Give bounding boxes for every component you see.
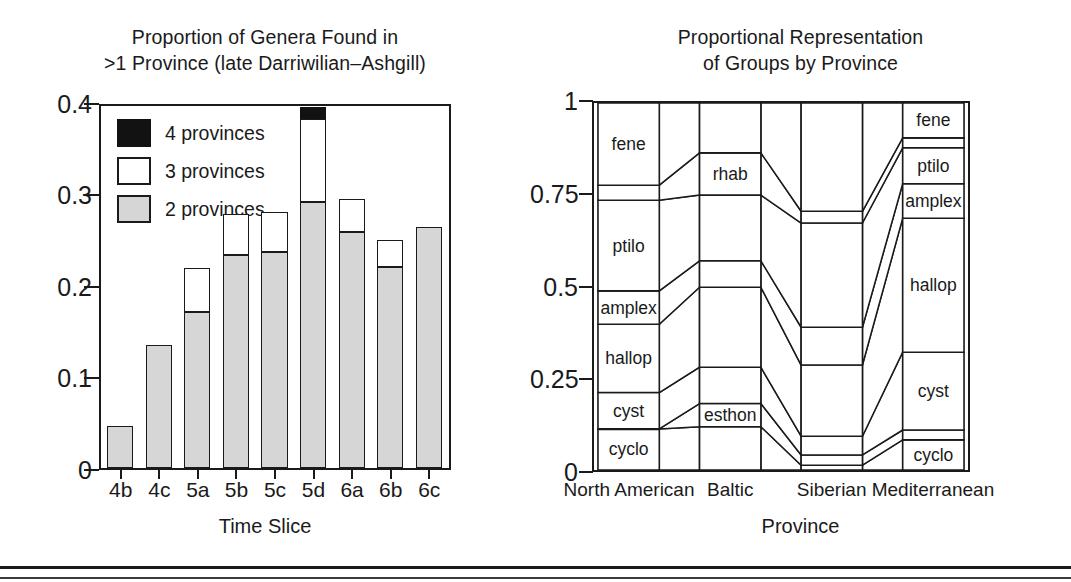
cell-north-american-fene[interactable] <box>598 103 659 185</box>
left-xtickmark-6a <box>351 470 353 479</box>
cell-baltic-rhab[interactable] <box>700 153 761 195</box>
cell-north-american-ptilo[interactable] <box>598 200 659 291</box>
left-xtickmark-5d <box>313 470 315 479</box>
cell-baltic-esthon[interactable] <box>700 404 761 427</box>
left-xtickmark-5c <box>274 470 276 479</box>
cell-mediterranean-amplex[interactable] <box>903 184 964 218</box>
legend-swatch-4-provinces-icon <box>117 119 151 147</box>
left-tickmark-0.1 <box>84 377 99 379</box>
bar-segment-6c-2-provinces <box>416 227 442 468</box>
bar-segment-5c-3-provinces <box>261 212 287 253</box>
right-chart-title: Proportional Representation of Groups by… <box>530 24 1071 76</box>
right-tickmark-0.5 <box>579 286 593 288</box>
left-xtick-5c: 5c <box>264 479 286 501</box>
right-tickmark-0.25 <box>579 378 593 380</box>
left-axis-label: Time Slice <box>0 515 530 538</box>
left-xtick-5d: 5d <box>302 479 325 501</box>
cell-siberian-hallop[interactable] <box>801 365 862 436</box>
legend-label-4-provinces: 4 provinces <box>165 122 265 145</box>
right-xtick-mediterranean: Mediterranean <box>872 479 995 501</box>
cell-mediterranean-ptilo[interactable] <box>903 148 964 184</box>
right-xtick-siberian: Siberian <box>797 479 867 501</box>
cell-baltic-ptilo[interactable] <box>700 195 761 261</box>
left-tickmark-0.4 <box>84 103 99 105</box>
cell-mediterranean-rhab[interactable] <box>903 138 964 148</box>
cell-siberian-cyst[interactable] <box>801 436 862 455</box>
cell-baltic-hallop[interactable] <box>700 287 761 367</box>
bar-segment-4c-2-provinces <box>146 345 172 468</box>
cell-baltic-fene[interactable] <box>700 103 761 153</box>
cell-baltic-cyst[interactable] <box>700 367 761 403</box>
cell-north-american-cyclo[interactable] <box>598 429 659 470</box>
left-tickmark-0.3 <box>84 194 99 196</box>
legend-swatch-3-provinces-icon <box>117 157 151 185</box>
cell-north-american-hallop[interactable] <box>598 324 659 392</box>
cell-mediterranean-cyclo[interactable] <box>903 440 964 470</box>
cell-baltic-amplex[interactable] <box>700 261 761 287</box>
bar-5b[interactable] <box>223 214 249 468</box>
bar-segment-4b-2-provinces <box>107 426 133 468</box>
province-ribbon-diagram <box>594 103 968 470</box>
cell-mediterranean-cyst[interactable] <box>903 352 964 430</box>
ribbon-cyclo-north-american-to-baltic <box>659 427 699 470</box>
left-xtickmark-5b <box>235 470 237 479</box>
bar-5c[interactable] <box>261 212 287 468</box>
bar-6a[interactable] <box>339 199 365 468</box>
left-title-line-1: Proportion of Genera Found in <box>0 24 530 50</box>
bar-6b[interactable] <box>377 240 403 468</box>
left-xtick-6b: 6b <box>379 479 402 501</box>
cell-siberian-esthon[interactable] <box>801 455 862 465</box>
bar-6c[interactable] <box>416 227 442 468</box>
left-tickmark-0.2 <box>84 286 99 288</box>
bar-segment-5b-3-provinces <box>223 214 249 255</box>
cell-siberian-fene[interactable] <box>801 103 862 211</box>
bar-segment-5a-3-provinces <box>184 268 210 312</box>
cell-siberian-ptilo[interactable] <box>801 223 862 327</box>
left-xtick-6a: 6a <box>340 479 363 501</box>
cell-north-american-rhab[interactable] <box>598 185 659 200</box>
right-ytick-0.25: 0.25 <box>530 367 578 392</box>
left-plot-area: 4 provinces 3 provinces 2 provinces <box>99 104 451 470</box>
cell-siberian-rhab[interactable] <box>801 211 862 223</box>
right-xtick-north-american: North American <box>564 479 695 501</box>
cell-baltic-cyclo[interactable] <box>700 427 761 470</box>
legend-item-3-provinces: 3 provinces <box>117 152 265 190</box>
right-ytick-0.5: 0.5 <box>530 275 578 300</box>
left-xtickmark-4c <box>158 470 160 479</box>
left-chart-title: Proportion of Genera Found in >1 Provinc… <box>0 24 530 76</box>
bar-segment-6b-2-provinces <box>377 267 403 468</box>
left-title-line-2: >1 Province (late Darriwilian–Ashgill) <box>0 50 530 76</box>
left-xtickmark-4b <box>120 470 122 479</box>
right-xtick-baltic: Baltic <box>707 479 753 501</box>
legend-swatch-2-provinces-icon <box>117 195 151 223</box>
cell-mediterranean-hallop[interactable] <box>903 218 964 352</box>
bar-5d[interactable] <box>300 107 326 468</box>
bar-segment-5d-4-provinces <box>300 107 326 119</box>
left-xtick-4b: 4b <box>109 479 132 501</box>
bar-segment-5c-2-provinces <box>261 252 287 468</box>
left-legend: 4 provinces 3 provinces 2 provinces <box>117 114 265 228</box>
cell-mediterranean-esthon[interactable] <box>903 430 964 440</box>
bar-4b[interactable] <box>107 426 133 468</box>
cell-mediterranean-fene[interactable] <box>903 103 964 138</box>
right-ytick-1: 1 <box>530 89 578 114</box>
plate-divider-rule-secondary <box>0 577 1071 579</box>
bar-segment-6b-3-provinces <box>377 240 403 267</box>
right-axis-label: Province <box>530 515 1071 538</box>
bar-5a[interactable] <box>184 268 210 468</box>
left-tickmark-0 <box>84 469 99 471</box>
right-tickmark-0.75 <box>579 193 593 195</box>
left-ytick-0.3: 0.3 <box>0 183 92 208</box>
cell-siberian-amplex[interactable] <box>801 327 862 365</box>
left-ytick-0.1: 0.1 <box>0 366 92 391</box>
left-xtick-5a: 5a <box>186 479 209 501</box>
left-ytick-0.4: 0.4 <box>0 92 92 117</box>
bar-segment-6a-3-provinces <box>339 199 365 231</box>
bar-segment-5d-3-provinces <box>300 119 326 202</box>
cell-north-american-amplex[interactable] <box>598 291 659 324</box>
right-ytick-0.75: 0.75 <box>530 182 578 207</box>
bar-4c[interactable] <box>146 345 172 468</box>
cell-north-american-cyst[interactable] <box>598 393 659 429</box>
bar-segment-6a-2-provinces <box>339 232 365 468</box>
legend-item-4-provinces: 4 provinces <box>117 114 265 152</box>
